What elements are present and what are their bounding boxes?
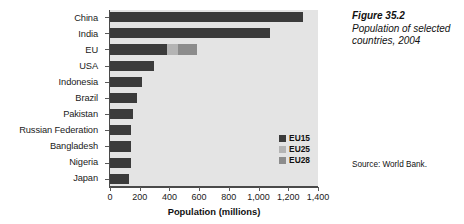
category-label: India <box>0 29 104 39</box>
bar-row <box>110 61 318 71</box>
x-axis-tick <box>110 187 111 191</box>
x-axis-title: Population (millions) <box>110 206 318 217</box>
legend-swatch-icon <box>279 157 286 164</box>
legend-swatch-icon <box>279 146 286 153</box>
x-axis-tick-label: 200 <box>132 192 147 202</box>
y-axis-tick <box>105 130 109 131</box>
y-axis-tick <box>105 49 109 50</box>
category-axis: ChinaIndiaEUUSAIndonesiaBrazilPakistanRu… <box>0 12 104 184</box>
chart-legend: EU15EU25EU28 <box>279 134 310 165</box>
y-axis-tick <box>105 82 109 83</box>
bar-segment-eu15 <box>110 125 131 135</box>
legend-item: EU15 <box>279 134 310 143</box>
legend-item: EU25 <box>279 145 310 154</box>
bar-row <box>110 44 318 54</box>
category-label: Russian Federation <box>0 125 104 135</box>
legend-label: EU25 <box>289 145 310 154</box>
x-axis: 02004006008001,0001,2001,400 <box>110 187 318 207</box>
x-axis-tick <box>169 187 170 191</box>
y-axis-tick <box>105 146 109 147</box>
legend-label: EU15 <box>289 134 310 143</box>
y-axis-tick <box>105 163 109 164</box>
y-axis-tick <box>105 33 109 34</box>
bar-row <box>110 93 318 103</box>
y-axis-tick <box>105 114 109 115</box>
category-label: Pakistan <box>0 109 104 119</box>
y-axis-tick <box>105 98 109 99</box>
figure-title: Population of selected countries, 2004 <box>352 23 460 48</box>
population-bar-chart: ChinaIndiaEUUSAIndonesiaBrazilPakistanRu… <box>0 0 340 224</box>
legend-swatch-icon <box>279 135 286 142</box>
bar-row <box>110 77 318 87</box>
y-axis-tick <box>105 17 109 18</box>
x-axis-tick-label: 400 <box>162 192 177 202</box>
category-label: Japan <box>0 173 104 183</box>
legend-item: EU28 <box>279 156 310 165</box>
x-axis-tick-label: 1,200 <box>277 192 300 202</box>
bar-segment-eu15 <box>110 61 154 71</box>
bar-row <box>110 174 318 184</box>
x-axis-tick <box>229 187 230 191</box>
x-axis-tick-label: 1,000 <box>247 192 270 202</box>
source-note: Source: World Bank. <box>352 160 462 170</box>
figure-number: Figure 35.2 <box>352 10 460 23</box>
x-axis-tick-label: 0 <box>107 192 112 202</box>
category-label: USA <box>0 61 104 71</box>
category-label: Nigeria <box>0 157 104 167</box>
bar-row <box>110 28 318 38</box>
bar-segment-eu15 <box>110 158 131 168</box>
category-label: Bangladesh <box>0 141 104 151</box>
bar-segment-eu15 <box>110 141 131 151</box>
x-axis-tick <box>288 187 289 191</box>
x-axis-tick <box>259 187 260 191</box>
x-axis-tick-label: 1,400 <box>307 192 330 202</box>
x-axis-tick-label: 600 <box>192 192 207 202</box>
x-axis-tick <box>140 187 141 191</box>
y-axis-tick <box>105 66 109 67</box>
category-label: Brazil <box>0 93 104 103</box>
y-axis-tick <box>105 179 109 180</box>
bar-segment-eu15 <box>110 109 133 119</box>
figure-caption: Figure 35.2 Population of selected count… <box>352 10 460 48</box>
bar-row <box>110 109 318 119</box>
category-label: China <box>0 13 104 23</box>
x-axis-tick-label: 800 <box>221 192 236 202</box>
bar-segment-eu15 <box>110 12 303 22</box>
bar-segment-eu15 <box>110 174 129 184</box>
x-axis-tick <box>199 187 200 191</box>
bar-segment-eu28 <box>178 44 197 54</box>
plot-area: EU15EU25EU28 <box>110 10 318 186</box>
bar-row <box>110 12 318 22</box>
bar-segment-eu25 <box>167 44 178 54</box>
category-label: EU <box>0 45 104 55</box>
bar-segment-eu15 <box>110 44 167 54</box>
x-axis-tick <box>318 187 319 191</box>
category-label: Indonesia <box>0 77 104 87</box>
bar-segment-eu15 <box>110 28 270 38</box>
legend-label: EU28 <box>289 156 310 165</box>
bar-segment-eu15 <box>110 93 137 103</box>
bar-segment-eu15 <box>110 77 142 87</box>
